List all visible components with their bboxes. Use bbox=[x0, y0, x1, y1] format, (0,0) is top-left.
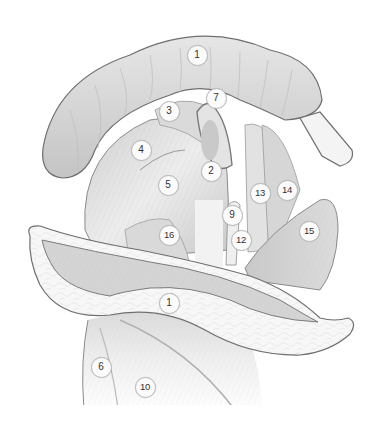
anatomy-drawing bbox=[0, 0, 376, 435]
callout-label: 4 bbox=[138, 145, 144, 155]
callout-5: 5 bbox=[158, 175, 179, 196]
callout-label: 15 bbox=[304, 226, 314, 236]
callout-3: 3 bbox=[159, 101, 180, 122]
callout-12: 12 bbox=[231, 230, 252, 251]
anatomy-figure: 1 7 3 4 2 5 13 14 9 16 12 15 1 6 10 bbox=[0, 0, 376, 435]
callout-label: 1 bbox=[194, 50, 200, 60]
callout-1-upper: 1 bbox=[187, 45, 208, 66]
callout-label: 12 bbox=[236, 235, 246, 245]
callout-6: 6 bbox=[91, 357, 112, 378]
callout-9: 9 bbox=[222, 205, 243, 226]
callout-label: 7 bbox=[213, 93, 219, 103]
callout-label: 1 bbox=[166, 298, 172, 308]
callout-13: 13 bbox=[250, 183, 271, 204]
callout-10: 10 bbox=[135, 377, 156, 398]
callout-16: 16 bbox=[159, 225, 180, 246]
callout-label: 6 bbox=[98, 362, 104, 372]
callout-label: 3 bbox=[166, 106, 172, 116]
callout-2: 2 bbox=[201, 161, 222, 182]
callout-label: 10 bbox=[140, 382, 150, 392]
callout-label: 5 bbox=[165, 180, 171, 190]
callout-label: 13 bbox=[255, 188, 265, 198]
callout-label: 14 bbox=[282, 185, 292, 195]
callout-1-lower: 1 bbox=[159, 293, 180, 314]
callout-7: 7 bbox=[206, 88, 227, 109]
callout-4: 4 bbox=[131, 140, 152, 161]
callout-15: 15 bbox=[299, 221, 320, 242]
callout-14: 14 bbox=[277, 180, 298, 201]
callout-label: 2 bbox=[208, 166, 214, 176]
callout-label: 9 bbox=[229, 210, 235, 220]
callout-label: 16 bbox=[164, 230, 174, 240]
